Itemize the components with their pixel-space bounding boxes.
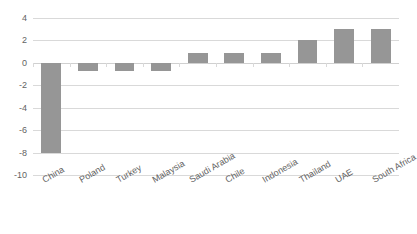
y-axis-tick-label: -8: [19, 148, 27, 157]
y-axis-tick-label: -10: [14, 171, 27, 180]
bar: [371, 29, 391, 63]
y-axis-tick-label: -2: [19, 81, 27, 90]
y-axis-tick-label: -6: [19, 126, 27, 135]
bars: [33, 18, 399, 175]
y-axis-tick-label: -4: [19, 103, 27, 112]
bar: [334, 29, 354, 63]
y-axis-tick-label: 4: [22, 14, 27, 23]
bar: [78, 63, 98, 71]
bar: [151, 63, 171, 71]
y-axis-tick-label: 2: [22, 36, 27, 45]
bar: [224, 53, 244, 63]
x-axis-labels: ChinaPolandTurkeyMalaysiaSaudi ArabiaChi…: [33, 177, 399, 234]
plot-area: 420-2-4-6-8-10: [33, 18, 399, 175]
bar: [298, 40, 318, 62]
bar: [261, 53, 281, 63]
y-axis-tick-label: 0: [22, 58, 27, 67]
bar: [41, 63, 61, 153]
bar: [188, 53, 208, 63]
bar: [115, 63, 135, 71]
